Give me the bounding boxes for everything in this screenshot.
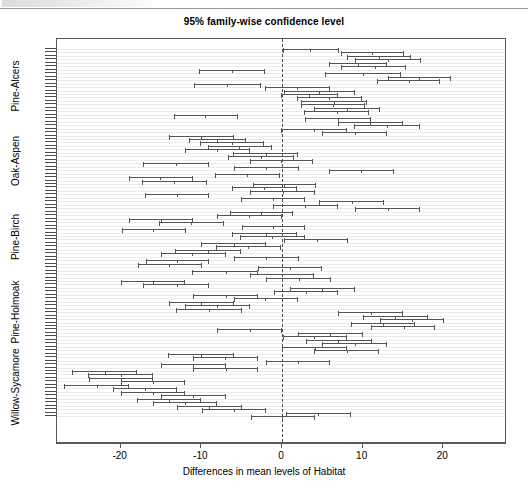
interval-lower-cap [322,131,323,136]
interval-lower-cap [217,328,218,333]
interval-upper-cap [419,124,420,129]
interval-lower-cap [143,283,144,288]
interval-lower-cap [142,180,143,185]
gridline [57,336,505,337]
y-tick [45,200,56,201]
interval-lower-cap [241,197,242,202]
interval-lower-cap [113,387,114,392]
y-tick [45,186,56,187]
gridline [57,52,505,53]
interval-center-point [217,149,218,152]
interval-lower-cap [281,93,282,98]
confidence-interval [347,56,412,57]
y-tick [45,221,56,222]
interval-lower-cap [284,238,285,243]
confidence-interval [351,323,416,324]
interval-center-point [314,129,315,132]
y-group-label-pine-holmoak: Pine-Holmoak [10,280,21,343]
gridline [57,409,505,410]
confidence-interval [230,212,294,213]
interval-upper-cap [265,408,266,413]
confidence-interval [194,84,261,85]
chart-page: 95% family-wise confidence level Pine-Al… [0,0,528,499]
confidence-interval [273,205,338,206]
y-tick [45,283,56,284]
interval-upper-cap [386,131,387,136]
confidence-interval [305,118,370,119]
interval-lower-cap [338,121,339,126]
interval-upper-cap [279,173,280,178]
confidence-interval [301,101,366,102]
gridline [57,104,505,105]
confidence-interval [72,371,137,372]
interval-upper-cap [185,228,186,233]
interval-upper-cap [314,190,315,195]
confidence-interval [177,406,242,407]
confidence-interval [283,336,348,337]
confidence-interval [217,329,282,330]
confidence-interval [234,167,299,168]
confidence-interval [146,260,210,261]
y-tick [45,173,56,174]
interval-center-point [174,181,175,184]
y-tick [45,225,56,226]
y-tick [45,315,56,316]
confidence-interval [189,139,245,140]
interval-center-point [176,163,177,166]
interval-center-point [409,80,410,83]
interval-center-point [97,385,98,388]
confidence-interval [371,326,436,327]
interval-upper-cap [314,415,315,420]
gridline [57,108,505,109]
y-group-label-pine-birch: Pine-Birch [10,213,21,259]
interval-center-point [272,236,273,239]
confidence-interval [185,305,250,306]
interval-upper-cap [297,152,298,157]
y-tick [45,398,56,399]
confidence-interval [121,381,186,382]
confidence-interval [169,302,234,303]
interval-center-point [225,357,226,360]
y-tick [45,349,56,350]
y-tick [45,218,56,219]
interval-upper-cap [298,256,299,261]
interval-lower-cap [363,315,364,320]
confidence-interval [161,395,226,396]
interval-center-point [248,246,249,249]
interval-lower-cap [371,325,372,330]
y-tick [45,65,56,66]
confidence-interval [153,402,218,403]
interval-lower-cap [228,155,229,160]
confidence-interval [274,291,339,292]
gridline [57,139,505,140]
interval-lower-cap [192,270,193,275]
confidence-interval [250,160,314,161]
y-tick [45,204,56,205]
y-tick [45,415,56,416]
y-tick [45,363,56,364]
interval-lower-cap [258,266,259,271]
interval-center-point [355,343,356,346]
interval-lower-cap [329,169,330,174]
interval-lower-cap [215,173,216,178]
interval-center-point [266,167,267,170]
y-tick [45,290,56,291]
y-tick [45,117,56,118]
gridline [57,174,505,175]
interval-upper-cap [443,318,444,323]
y-tick [45,183,56,184]
y-tick [45,360,56,361]
interval-center-point [281,160,282,163]
y-tick [45,249,56,250]
interval-lower-cap [234,256,235,261]
y-tick [45,90,56,91]
confidence-interval [121,392,186,393]
interval-upper-cap [249,304,250,309]
interval-upper-cap [281,214,282,219]
y-tick [45,152,56,153]
gridline [57,59,505,60]
y-tick [45,159,56,160]
interval-upper-cap [304,197,305,202]
confidence-interval [301,104,366,105]
interval-upper-cap [237,114,238,119]
